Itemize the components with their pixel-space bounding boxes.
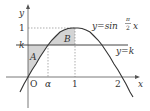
line-k-label: y=k [115,46,134,56]
sine-area-diagram: y 1 k A B O α 1 2 x y=sin π 2 x y=k [0,0,150,111]
origin-label: O [30,79,37,89]
curve-frac-num: π [125,15,131,22]
tick-x-alpha: α [45,79,51,89]
curve-frac-den: 2 [126,24,130,31]
region-b-shade [48,28,75,45]
y-axis-label: y [18,8,25,18]
x-axis-label: x [138,79,143,89]
region-b-label: B [63,34,71,44]
curve-label-suffix: x [133,21,138,31]
tick-y-k: k [19,40,24,50]
tick-x-two: 2 [115,79,121,89]
y-axis-arrow-icon [26,4,30,9]
tick-x-one: 1 [72,79,78,89]
curve-label-prefix: y=sin [91,21,118,31]
tick-y-one: 1 [19,23,25,33]
diagram-canvas: y 1 k A B O α 1 2 x y=sin π 2 x y=k [0,0,150,111]
region-a-label: A [29,52,37,62]
